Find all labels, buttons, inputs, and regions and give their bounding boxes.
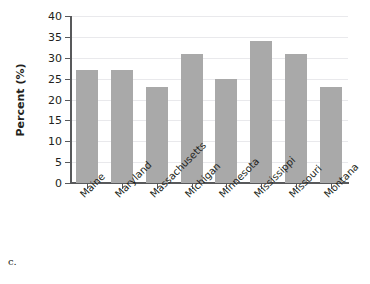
y-tick-label: 35 xyxy=(34,32,62,43)
y-tick-label: 15 xyxy=(34,115,62,126)
bar-chart-figure: Percent (%) 0510152025303540 MaineMaryla… xyxy=(0,0,370,284)
bar[interactable] xyxy=(111,70,133,183)
y-tick-label: 40 xyxy=(34,11,62,22)
figure-caption: c. xyxy=(8,256,17,268)
y-axis-title: Percent (%) xyxy=(14,30,28,170)
y-tick-label: 25 xyxy=(34,74,62,85)
y-tick-label: 10 xyxy=(34,136,62,147)
bar[interactable] xyxy=(320,87,342,183)
y-tick-label: 20 xyxy=(34,95,62,106)
bar[interactable] xyxy=(76,70,98,183)
y-tick-label: 5 xyxy=(34,157,62,168)
y-tick-label: 30 xyxy=(34,53,62,64)
plot-area xyxy=(70,16,348,183)
y-tick-label: 0 xyxy=(34,178,62,189)
